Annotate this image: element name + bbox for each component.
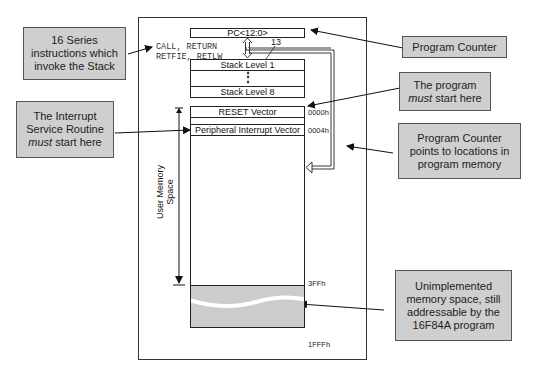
pc-label: PC<12:0> [227,28,268,38]
bus-width-label: 13 [271,37,281,47]
callout-program-start: The program must start here [399,72,491,111]
callout-pc-points: Program Counter points to locations in p… [398,123,521,179]
program-counter-register: PC<12:0> [190,28,305,38]
unimplemented-memory [190,285,305,328]
address-0000h: 0000h [308,108,329,117]
stack-ellipsis: ⋮ [240,70,256,85]
stack-instructions-line1: CALL, RETURN [156,42,222,52]
stack-level-8: Stack Level 8 [190,86,305,98]
callout-program-counter: Program Counter [402,36,507,58]
user-memory-space-label: User Memory Space [155,157,175,227]
memory-break-wave [191,286,305,328]
peripheral-interrupt-vector-row: Peripheral Interrupt Vector [190,124,305,136]
address-0004h: 0004h [308,126,329,135]
address-1fffh: 1FFFh [308,340,330,349]
address-3ffh: 3FFh [308,279,326,288]
callout-interrupt-routine: The Interrupt Service Routine must start… [16,101,114,158]
callout-stack-instructions: 16 Series instructions which invoke the … [23,27,126,80]
callout-unimplemented: Unimplemented memory space, still addres… [395,270,512,341]
